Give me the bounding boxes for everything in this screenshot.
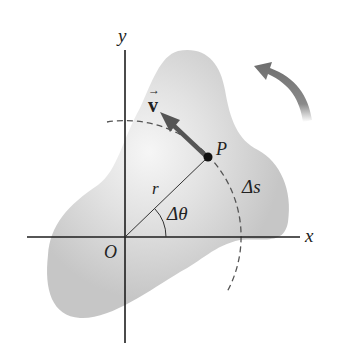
diagram-canvas bbox=[0, 0, 343, 356]
origin-label: O bbox=[104, 243, 117, 261]
x-axis-label: x bbox=[305, 226, 313, 245]
rotation-diagram: y x O P r Δθ Δs v → bbox=[0, 0, 343, 356]
velocity-label: v bbox=[148, 95, 158, 115]
rotation-arrow-icon bbox=[254, 62, 312, 122]
arc-length-label: Δs bbox=[242, 177, 261, 196]
y-axis-label: y bbox=[118, 26, 126, 45]
point-p-label: P bbox=[216, 140, 227, 158]
radius-label: r bbox=[152, 180, 159, 197]
angle-label: Δθ bbox=[167, 204, 187, 223]
velocity-vector-accent-icon: → bbox=[148, 84, 160, 96]
point-p-dot bbox=[204, 153, 213, 162]
